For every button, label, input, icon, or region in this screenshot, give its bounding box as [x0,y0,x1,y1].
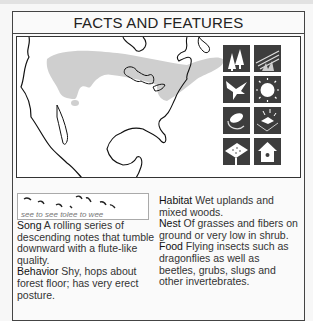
song-notes-icon [18,194,150,210]
song-sonogram: see to see tolee to wee [17,193,149,220]
fact-label: Song [17,219,42,231]
fact-label: Habitat [159,194,192,206]
fact-label: Food [159,240,183,252]
ground-nest-icon [254,107,281,134]
woodland-habitat-icon [223,45,250,72]
panel-title: FACTS AND FEATURES [13,12,304,34]
habitat-fact: Habitat Wet uplands and mixed woods. [159,195,299,218]
fact-label: Nest [159,217,181,229]
egg-nest-icon [223,107,250,134]
sun-icon [254,76,281,103]
feature-icon-grid [223,45,281,165]
song-phonetic-caption: see to see tolee to wee [21,210,103,219]
facts-right-column: Habitat Wet uplands and mixed woods. Nes… [159,195,299,288]
birdhouse-icon [254,138,281,165]
fact-text: Of grasses and fibers on ground or very … [159,217,298,241]
range-map [16,36,301,178]
food-fact: Food Flying insects such as dragonflies … [159,241,299,287]
nest-fact: Nest Of grasses and fibers on ground or … [159,218,299,241]
flying-bird-icon [223,76,250,103]
song-fact: Song A rolling series of descending note… [17,220,157,266]
fact-label: Behavior [17,265,58,277]
top-strip [0,0,313,4]
feeder-tray-icon [223,138,250,165]
behavior-fact: Behavior Shy, hops about forest floor; h… [17,266,157,301]
facts-panel: FACTS AND FEATURES [12,11,305,321]
grassland-sunrise-icon [254,45,281,72]
facts-left-column: Song A rolling series of descending note… [17,220,157,301]
